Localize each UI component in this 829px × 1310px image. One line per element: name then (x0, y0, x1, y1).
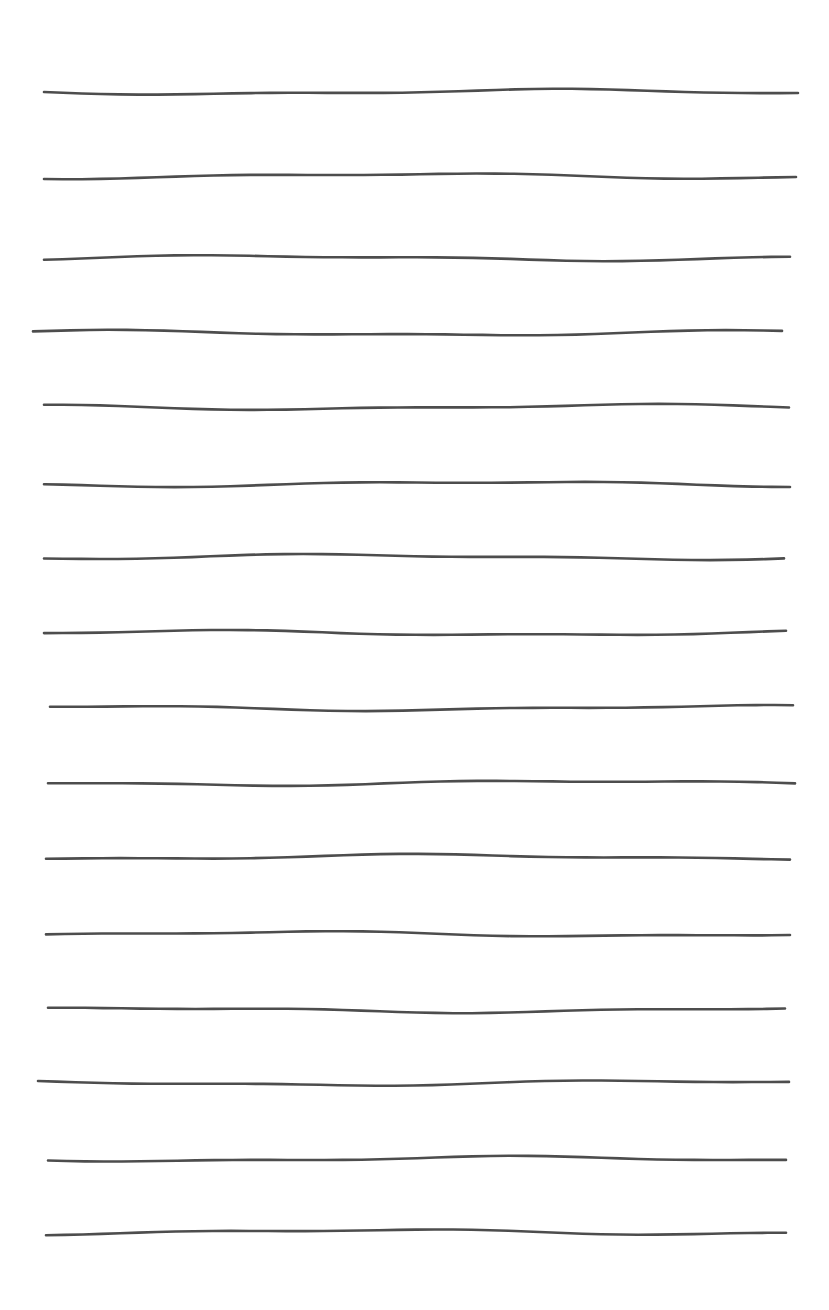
ruled-line (48, 1156, 786, 1162)
ruled-line (50, 705, 793, 711)
ruled-line (44, 404, 789, 410)
ruled-line (44, 174, 796, 180)
ruled-lines (0, 0, 829, 1310)
ruled-line (44, 630, 786, 635)
ruled-line (46, 854, 790, 860)
ruled-line (38, 1081, 789, 1086)
ruled-line (46, 1230, 786, 1236)
ruled-line (48, 781, 795, 786)
ruled-line (46, 931, 790, 936)
ruled-line (44, 89, 798, 95)
lined-paper-sheet (0, 0, 829, 1310)
ruled-line (33, 330, 782, 336)
ruled-line (44, 482, 790, 487)
ruled-line (44, 255, 790, 261)
ruled-line (48, 1008, 785, 1014)
ruled-line (44, 554, 784, 560)
